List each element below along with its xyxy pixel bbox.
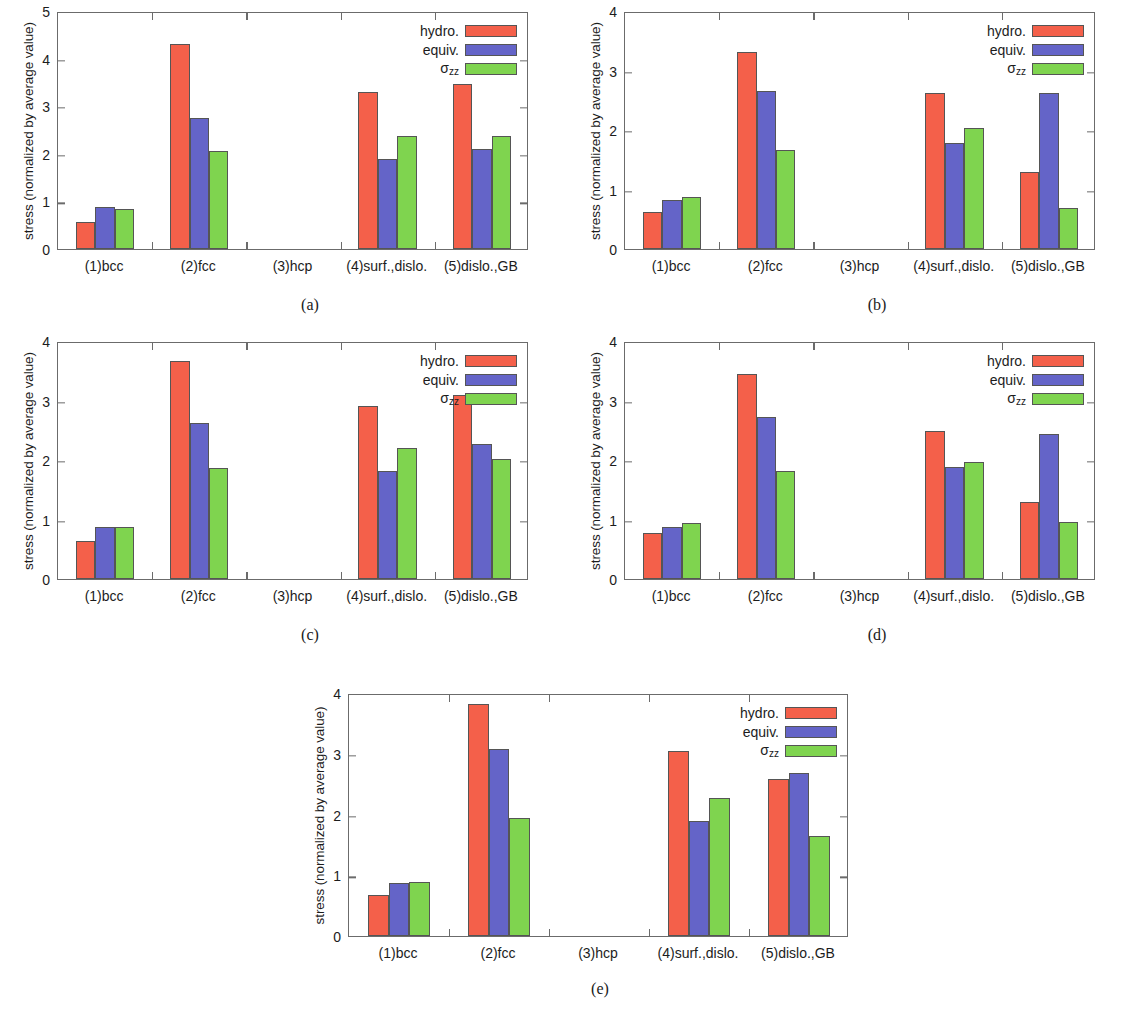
- legend-row-equiv: equiv.: [743, 723, 837, 740]
- legend-label-equiv: equiv.: [990, 43, 1026, 57]
- y-tick-label: 0: [333, 929, 341, 945]
- legend-swatch-equiv: [465, 44, 517, 56]
- bar-d-4-2: [1059, 522, 1078, 579]
- legend-label-sigma_zz: σzz: [1007, 391, 1026, 407]
- y-tick-label: 1: [42, 194, 50, 210]
- legend-label-sigma_zz: σzz: [440, 391, 459, 407]
- bar-a-4-1: [472, 149, 491, 249]
- y-tick-mark: [349, 755, 356, 756]
- x-tick-mark: [1002, 343, 1003, 350]
- bar-c-1-2: [209, 468, 228, 579]
- bar-e-4-1: [789, 773, 810, 936]
- x-tick-mark: [152, 242, 153, 249]
- bar-e-0-0: [368, 895, 389, 936]
- panel-caption-e: (e): [591, 980, 609, 998]
- plot-area-d: hydro.equiv.σzz: [624, 342, 1095, 580]
- x-tick-mark: [813, 343, 814, 350]
- panel-caption-b: (b): [868, 296, 887, 314]
- y-tick-mark: [840, 877, 847, 878]
- bar-c-3-2: [397, 448, 416, 579]
- bar-e-1-1: [489, 749, 510, 936]
- y-tick-mark: [840, 755, 847, 756]
- bar-a-4-0: [453, 84, 472, 249]
- y-tick-label: 3: [42, 394, 50, 410]
- legend-swatch-sigma_zz: [785, 745, 837, 757]
- chart-panel-a: stress (normalized by average value)hydr…: [0, 0, 567, 330]
- bar-b-1-1: [757, 91, 776, 249]
- x-tick-label: (3)hcp: [273, 258, 313, 274]
- y-tick-label: 1: [333, 868, 341, 884]
- legend-swatch-equiv: [785, 726, 837, 738]
- y-tick-mark: [1087, 521, 1094, 522]
- bar-c-3-1: [378, 471, 397, 579]
- x-tick-label: (5)dislo.,GB: [444, 588, 518, 604]
- chart-panel-d: stress (normalized by average value)hydr…: [567, 330, 1134, 660]
- bar-b-4-1: [1039, 93, 1058, 249]
- panel-caption-a: (a): [301, 296, 319, 314]
- x-tick-mark: [341, 343, 342, 350]
- legend-row-equiv: equiv.: [423, 371, 517, 388]
- legend-label-sigma_zz: σzz: [1007, 61, 1026, 77]
- y-tick-label: 2: [42, 453, 50, 469]
- bar-d-1-1: [757, 417, 776, 579]
- legend-swatch-sigma_zz: [465, 393, 517, 405]
- legend-row-sigma_zz: σzz: [440, 60, 517, 77]
- y-tick-label: 0: [42, 572, 50, 588]
- x-tick-mark: [246, 572, 247, 579]
- x-tick-mark: [435, 242, 436, 249]
- bar-e-4-2: [809, 836, 830, 936]
- x-tick-mark: [152, 13, 153, 20]
- y-tick-label: 4: [609, 4, 617, 20]
- legend-c: hydro.equiv.σzz: [420, 352, 517, 407]
- y-tick-mark: [520, 108, 527, 109]
- legend-swatch-sigma_zz: [1032, 393, 1084, 405]
- plot-area-e: hydro.equiv.σzz: [348, 694, 848, 937]
- y-tick-label: 4: [42, 334, 50, 350]
- y-tick-mark: [349, 877, 356, 878]
- legend-label-hydro: hydro.: [987, 354, 1026, 368]
- bar-c-4-2: [492, 459, 511, 579]
- y-tick-mark: [625, 72, 632, 73]
- bar-d-0-0: [643, 533, 662, 579]
- y-tick-mark: [58, 60, 65, 61]
- x-tick-label: (5)dislo.,GB: [1011, 258, 1085, 274]
- x-tick-mark: [246, 343, 247, 350]
- bar-e-3-2: [709, 798, 730, 936]
- panel-caption-c: (c): [301, 626, 319, 644]
- legend-row-sigma_zz: σzz: [440, 390, 517, 407]
- legend-label-equiv: equiv.: [743, 725, 779, 739]
- x-tick-label: (1)bcc: [652, 258, 691, 274]
- legend-label-subscript: zz: [449, 396, 459, 407]
- bar-d-1-2: [776, 471, 795, 579]
- x-tick-mark: [449, 695, 450, 702]
- legend-row-hydro: hydro.: [420, 22, 517, 39]
- legend-row-hydro: hydro.: [987, 352, 1084, 369]
- y-tick-mark: [625, 461, 632, 462]
- legend-b: hydro.equiv.σzz: [987, 22, 1084, 77]
- bar-e-3-0: [668, 751, 689, 936]
- bar-a-0-0: [76, 222, 95, 249]
- legend-label-equiv: equiv.: [423, 43, 459, 57]
- y-axis-label: stress (normalized by average value): [312, 694, 327, 937]
- y-tick-label: 3: [609, 394, 617, 410]
- y-tick-mark: [1087, 461, 1094, 462]
- y-tick-label: 2: [42, 147, 50, 163]
- x-tick-label: (3)hcp: [273, 588, 313, 604]
- x-tick-mark: [649, 695, 650, 702]
- x-tick-mark: [549, 929, 550, 936]
- y-tick-label: 4: [609, 334, 617, 350]
- bar-a-0-2: [115, 209, 134, 249]
- x-tick-label: (3)hcp: [840, 588, 880, 604]
- x-tick-mark: [719, 572, 720, 579]
- chart-panel-b: stress (normalized by average value)hydr…: [567, 0, 1134, 330]
- legend-row-equiv: equiv.: [990, 41, 1084, 58]
- x-tick-label: (2)fcc: [181, 258, 216, 274]
- y-axis-label: stress (normalized by average value): [588, 342, 603, 580]
- bar-b-4-0: [1020, 172, 1039, 249]
- y-tick-label: 0: [609, 572, 617, 588]
- bar-b-1-0: [737, 52, 756, 249]
- x-tick-label: (4)surf.,dislo.: [913, 588, 994, 604]
- bar-b-3-0: [925, 93, 944, 249]
- x-tick-mark: [1002, 242, 1003, 249]
- y-tick-mark: [58, 108, 65, 109]
